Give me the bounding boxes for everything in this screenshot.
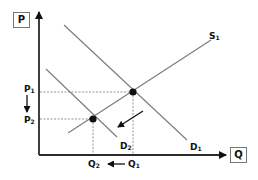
label-q2: Q2 bbox=[88, 159, 100, 170]
y-axis-label: P bbox=[18, 14, 25, 25]
demand-shift-arrow bbox=[118, 111, 143, 127]
axes bbox=[39, 12, 226, 155]
shift-arrows bbox=[27, 95, 143, 164]
label-q1: Q1 bbox=[128, 159, 140, 170]
demand-curve-d2 bbox=[46, 69, 117, 137]
x-axis-label: Q bbox=[234, 149, 243, 160]
label-d2: D2 bbox=[120, 141, 132, 152]
label-s1: S1 bbox=[209, 31, 220, 42]
equilibrium-point-e2 bbox=[89, 115, 96, 122]
label-d1: D1 bbox=[190, 142, 202, 153]
label-p2: P2 bbox=[24, 115, 35, 126]
equilibrium-point-e1 bbox=[129, 88, 136, 95]
x-axis-label-box: Q bbox=[230, 147, 247, 163]
curves bbox=[46, 25, 211, 140]
supply-demand-diagram: P Q S1 D1 D2 P1 P2 Q1 Q2 bbox=[0, 0, 258, 180]
y-axis-label-box: P bbox=[13, 12, 30, 28]
diagram-canvas bbox=[0, 0, 258, 180]
label-p1: P1 bbox=[24, 84, 35, 95]
